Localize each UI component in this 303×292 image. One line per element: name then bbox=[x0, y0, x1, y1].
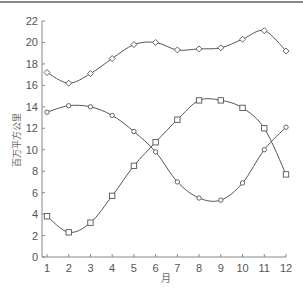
y-axis-title: 百万平方公里 bbox=[11, 113, 22, 167]
square-marker bbox=[262, 126, 267, 131]
circle-marker bbox=[240, 181, 244, 185]
x-tick-label: 1 bbox=[44, 262, 50, 274]
square-marker bbox=[131, 163, 136, 168]
x-tick-label: 2 bbox=[66, 262, 72, 274]
circle-marker bbox=[262, 148, 266, 152]
circle-marker bbox=[67, 104, 71, 108]
circle-marker bbox=[175, 180, 179, 184]
x-tick-label: 3 bbox=[87, 262, 93, 274]
y-tick-label: 22 bbox=[26, 15, 38, 27]
circle-marker bbox=[88, 105, 92, 109]
y-tick-label: 2 bbox=[32, 230, 38, 242]
square-marker bbox=[175, 117, 180, 122]
diamond-marker bbox=[218, 45, 224, 51]
diamond-marker bbox=[109, 56, 115, 62]
circle-marker bbox=[110, 113, 114, 117]
diamond-marker bbox=[66, 80, 72, 86]
y-tick-label: 10 bbox=[26, 144, 38, 156]
diamond-series-line bbox=[47, 30, 286, 83]
diamond-marker bbox=[174, 47, 180, 53]
y-tick-label: 16 bbox=[26, 79, 38, 91]
y-tick-label: 4 bbox=[32, 208, 38, 220]
diamond-marker bbox=[44, 69, 50, 75]
square-series-line bbox=[47, 99, 286, 233]
y-tick-label: 6 bbox=[32, 187, 38, 199]
square-marker bbox=[218, 98, 223, 103]
diamond-series bbox=[44, 28, 289, 87]
circle-series-line bbox=[47, 105, 286, 201]
x-tick-label: 10 bbox=[236, 262, 248, 274]
circle-marker bbox=[45, 110, 49, 114]
line-chart: 0246810121416182022123456789101112 百万平方公… bbox=[0, 0, 303, 292]
x-tick-label: 7 bbox=[174, 262, 180, 274]
square-marker bbox=[196, 98, 201, 103]
x-tick-label: 11 bbox=[259, 262, 270, 274]
circle-marker bbox=[284, 125, 288, 129]
diamond-marker bbox=[153, 39, 159, 45]
series-group bbox=[44, 28, 289, 235]
y-tick-label: 18 bbox=[26, 58, 38, 70]
square-marker bbox=[240, 105, 245, 110]
square-marker bbox=[66, 230, 71, 235]
diamond-marker bbox=[261, 28, 267, 34]
circle-marker bbox=[132, 129, 136, 133]
x-axis-title: 月 bbox=[161, 273, 171, 284]
y-tick-label: 14 bbox=[26, 101, 38, 113]
square-marker bbox=[283, 172, 288, 177]
y-tick-label: 0 bbox=[32, 251, 38, 263]
circle-series bbox=[45, 104, 288, 203]
x-tick-label: 6 bbox=[153, 262, 159, 274]
circle-marker bbox=[197, 196, 201, 200]
y-tick-label: 20 bbox=[26, 36, 38, 48]
square-marker bbox=[88, 220, 93, 225]
x-tick-label: 4 bbox=[109, 262, 115, 274]
square-marker bbox=[109, 193, 114, 198]
circle-marker bbox=[219, 198, 223, 202]
y-tick-label: 8 bbox=[32, 165, 38, 177]
x-tick-label: 9 bbox=[218, 262, 224, 274]
x-tick-label: 8 bbox=[196, 262, 202, 274]
y-tick-label: 12 bbox=[26, 122, 38, 134]
x-tick-label: 12 bbox=[280, 262, 292, 274]
x-tick-label: 5 bbox=[131, 262, 137, 274]
diamond-marker bbox=[196, 46, 202, 52]
circle-marker bbox=[153, 150, 157, 154]
diamond-marker bbox=[240, 36, 246, 42]
square-marker bbox=[153, 140, 158, 145]
square-marker bbox=[44, 214, 49, 219]
diamond-marker bbox=[131, 42, 137, 48]
diamond-marker bbox=[87, 71, 93, 77]
